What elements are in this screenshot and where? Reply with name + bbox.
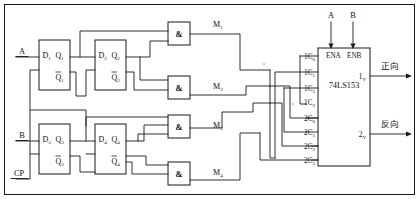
- input-a-label: A: [19, 47, 25, 56]
- ff1-qbar-label: Q1: [56, 73, 65, 83]
- ff1-d-label: D1: [43, 51, 52, 61]
- chip-pin-1c0: 1C0: [304, 53, 315, 62]
- ff2-d-label: D2: [99, 51, 108, 61]
- chip-pin-2c0: 2C0: [304, 115, 315, 124]
- qbar2-to-and2: [126, 72, 168, 90]
- ff2-q-label: Q2: [112, 51, 121, 61]
- ff2-box: [95, 40, 126, 90]
- chip-ena-label: ENA: [326, 52, 342, 60]
- qbar4-tap2: [126, 162, 168, 174]
- chip-pin-1c3: 1C3: [304, 99, 315, 108]
- output-1y-arrowhead: [406, 73, 412, 78]
- ff2-qbar-label: Q2: [112, 73, 121, 83]
- input-cp-label: CP: [14, 169, 25, 178]
- circuit-svg: D1 Q1 Q1 D2 Q2 Q2 D3 Q3 Q3 D4 Q4 Q4 A B …: [0, 0, 419, 199]
- tap-1c0-riser: [300, 56, 306, 104]
- chip-pin-2c3: 2C3: [304, 157, 315, 166]
- ff4-box: [95, 124, 126, 174]
- and-gate-4-symbol: &: [175, 169, 182, 179]
- q4-to-and3: [138, 134, 168, 141]
- input-b-label: B: [19, 131, 25, 140]
- m2-label: M2: [213, 82, 223, 92]
- chip-pin-1c1: 1C1: [304, 69, 315, 78]
- ff3-qbar-label: Q3: [56, 157, 65, 167]
- tap-1c2-riser: [284, 88, 306, 132]
- m4-label: M4: [213, 168, 223, 178]
- ff3-q-label: Q3: [56, 135, 65, 145]
- bus-col-2: [270, 70, 275, 158]
- qbar3-feedback: [70, 156, 95, 172]
- circuit-diagram: D1 Q1 Q1 D2 Q2 Q2 D3 Q3 Q3 D4 Q4 Q4 A B …: [0, 0, 419, 199]
- ff4-qbar-label: Q4: [112, 157, 121, 167]
- m2-net: [190, 86, 270, 95]
- cp-bus: [16, 70, 39, 179]
- ff4-d-label: D4: [99, 135, 108, 145]
- and-gate-3-symbol: &: [175, 122, 182, 132]
- ff1-box: [39, 40, 70, 90]
- m4-net: [190, 133, 260, 180]
- ff3-d-label: D3: [43, 135, 52, 145]
- bus-col-4: [270, 103, 318, 146]
- chip-74ls153-box: [318, 48, 370, 166]
- and-gate-1-symbol: &: [175, 29, 182, 39]
- chip-part-number: 74LS153: [329, 81, 360, 90]
- qbar1-feedback: [70, 70, 95, 96]
- chip-pin-1c2: 1C2: [304, 85, 315, 94]
- ff1-q-label: Q1: [56, 51, 65, 61]
- output-1y-annotation: 正向: [381, 61, 399, 71]
- ff3-box: [39, 124, 70, 174]
- select-a-label: A: [328, 11, 334, 20]
- q2-to-and2: [140, 57, 168, 80]
- q4-out: [126, 125, 168, 141]
- chip-enb-label: ENB: [347, 52, 362, 60]
- m3-net: [190, 103, 270, 128]
- output-2y-pin-label: 2Y: [359, 131, 367, 140]
- q1-to-and1: [80, 31, 168, 57]
- output-2y-arrowhead: [406, 131, 412, 136]
- select-b-label: B: [350, 11, 356, 20]
- chip-pin-2c2: 2C2: [304, 143, 315, 152]
- ff4-q-label: Q4: [112, 135, 121, 145]
- chip-pin-2c1: 2C1: [304, 129, 315, 138]
- q2-out: [126, 41, 168, 57]
- output-2y-annotation: 反向: [381, 119, 399, 129]
- output-1y-pin-label: 1Y: [359, 73, 367, 82]
- m1-label: M1: [213, 20, 223, 30]
- m1-net: [190, 34, 270, 70]
- and-gate-2-symbol: &: [175, 83, 182, 93]
